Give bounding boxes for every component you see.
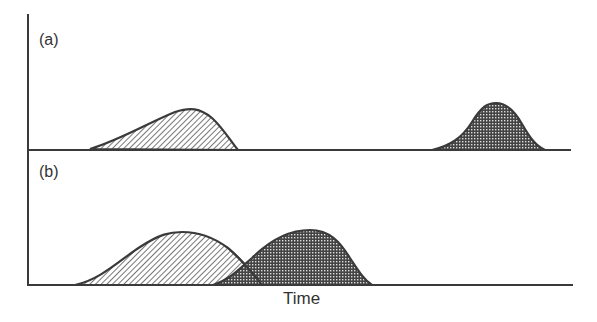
x-axis-label: Time <box>283 289 320 309</box>
panel-b <box>28 230 573 285</box>
panel-a-label: (a) <box>39 31 59 49</box>
peak-a2-dotted <box>432 103 545 150</box>
panel-b-label: (b) <box>39 163 59 181</box>
panel-a <box>28 103 571 150</box>
peak-a1-hatched <box>90 109 238 150</box>
chromatogram-diagram <box>0 0 597 322</box>
